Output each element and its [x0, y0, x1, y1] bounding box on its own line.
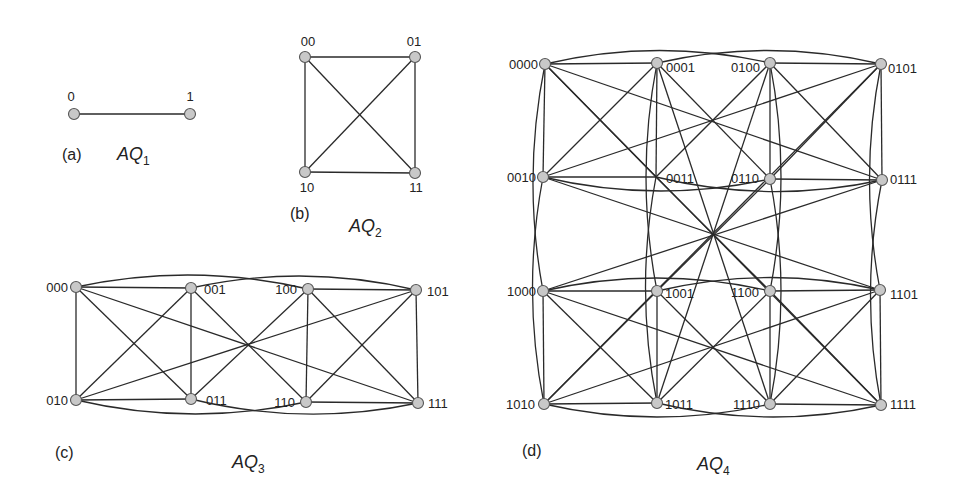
graph-node	[538, 286, 549, 297]
graph-node	[652, 286, 663, 297]
node-label: 1101	[890, 287, 918, 302]
node-label: 101	[427, 284, 449, 299]
graph-edge	[76, 399, 191, 400]
graph-edge	[543, 64, 545, 177]
graph-node	[652, 398, 663, 409]
panel-title-text: AQ	[348, 216, 375, 236]
node-label: 0110	[731, 171, 759, 186]
node-label: 1000	[507, 284, 536, 299]
graph-edge	[416, 290, 418, 403]
graph-node	[765, 286, 776, 297]
node-label: 1	[186, 89, 193, 104]
node-label: 100	[275, 282, 297, 297]
panel-title-subscript: 1	[143, 154, 150, 168]
panel-title: AQ4	[696, 454, 730, 478]
graph-node	[876, 59, 887, 70]
panel-title: AQ1	[116, 144, 150, 168]
graph-edge	[880, 290, 881, 405]
graph-edge	[545, 64, 882, 180]
node-label: 0010	[507, 170, 536, 185]
graph-edge	[306, 290, 416, 402]
graph-edge	[881, 64, 882, 180]
node-label: 0001	[666, 60, 695, 75]
node-label: 110	[274, 395, 295, 410]
node-label: 111	[428, 396, 448, 411]
augmented-cube-diagram: 01(a)AQ100011011(b)AQ2000001100101010011…	[0, 0, 965, 499]
panel-title-subscript: 4	[723, 464, 730, 478]
graph-edge	[543, 180, 882, 291]
node-label: 11	[409, 180, 423, 195]
graph-edge	[770, 179, 882, 180]
node-label: 0100	[731, 60, 760, 75]
panel-label: (b)	[290, 205, 310, 222]
node-label: 00	[301, 34, 315, 49]
graph-edge	[305, 172, 415, 173]
graph-node	[410, 52, 421, 63]
graph-edge	[544, 403, 657, 404]
graph-edge	[770, 404, 881, 405]
graph-node	[186, 283, 197, 294]
node-label: 1110	[733, 397, 760, 412]
panel-title-text: AQ	[116, 144, 143, 164]
graph-node	[652, 58, 663, 69]
graph-node	[538, 172, 549, 183]
graph-edge	[770, 63, 881, 64]
graph-node	[410, 168, 421, 179]
node-label: 001	[204, 282, 226, 297]
graph-edge	[770, 290, 880, 291]
node-label: 000	[46, 280, 68, 295]
node-label: 1010	[506, 397, 535, 412]
node-label: 0	[67, 89, 74, 104]
graph-edge	[76, 288, 191, 400]
graph-node	[71, 282, 82, 293]
panel-title-subscript: 2	[375, 226, 382, 240]
graph-node	[411, 285, 422, 296]
graph-node	[71, 395, 82, 406]
panel-title-subscript: 3	[258, 462, 265, 476]
panel-title-text: AQ	[696, 454, 723, 474]
node-label: 011	[206, 393, 227, 408]
graph-node	[301, 397, 312, 408]
graph-node	[69, 109, 80, 120]
graph-node	[765, 174, 776, 185]
graph-node	[540, 59, 551, 70]
node-label: 1100	[731, 285, 759, 300]
node-label: 01	[407, 34, 421, 49]
node-label: 010	[46, 393, 68, 408]
graph-node	[303, 284, 314, 295]
graph-edge	[76, 287, 191, 288]
panel-title-text: AQ	[231, 452, 258, 472]
graph-node	[300, 167, 311, 178]
graph-node	[876, 400, 887, 411]
graph-edge	[544, 290, 880, 404]
graph-node	[765, 58, 776, 69]
graph-node	[877, 175, 888, 186]
graph-node	[875, 285, 886, 296]
graph-edge	[656, 63, 657, 177]
graph-node	[185, 109, 196, 120]
node-label: 0111	[890, 172, 917, 187]
edges-layer	[74, 50, 882, 417]
panel-title: AQ3	[231, 452, 265, 476]
graph-edge	[306, 402, 418, 403]
labels-layer: 01(a)AQ100011011(b)AQ2000001100101010011…	[46, 34, 918, 478]
node-label: 0000	[509, 57, 538, 72]
node-label: 1011	[665, 397, 693, 412]
graph-edge	[76, 287, 191, 399]
graph-node	[186, 394, 197, 405]
graph-node	[765, 399, 776, 410]
panel-label: (a)	[62, 146, 82, 163]
graph-node	[413, 398, 424, 409]
node-label: 0101	[888, 61, 917, 76]
graph-edge	[306, 289, 308, 402]
node-label: 0011	[666, 171, 694, 186]
graph-edge	[308, 289, 416, 290]
graph-edge	[543, 177, 880, 290]
graph-edge	[545, 63, 657, 64]
panel-label: (c)	[55, 444, 74, 461]
node-label: 10	[300, 180, 314, 195]
node-label: 1001	[665, 286, 694, 301]
graph-node	[539, 399, 550, 410]
panel-label: (d)	[522, 442, 542, 459]
graph-edge	[308, 289, 418, 403]
